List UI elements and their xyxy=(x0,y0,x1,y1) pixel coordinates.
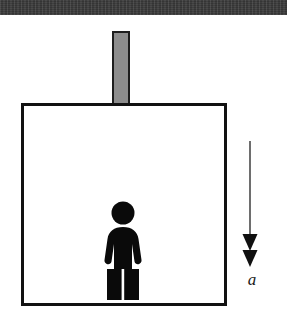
acceleration-arrow xyxy=(232,138,268,272)
support-rod xyxy=(112,31,130,105)
ceiling-texture xyxy=(0,0,287,15)
person-head-icon xyxy=(112,202,135,225)
person-leg-gap xyxy=(122,269,125,300)
physics-diagram: a xyxy=(0,0,287,320)
arrowhead-lower-icon xyxy=(243,250,258,267)
person-pictogram xyxy=(99,200,147,306)
arrowhead-upper-icon xyxy=(243,234,258,251)
acceleration-label: a xyxy=(239,270,265,290)
ceiling-band xyxy=(0,0,287,15)
